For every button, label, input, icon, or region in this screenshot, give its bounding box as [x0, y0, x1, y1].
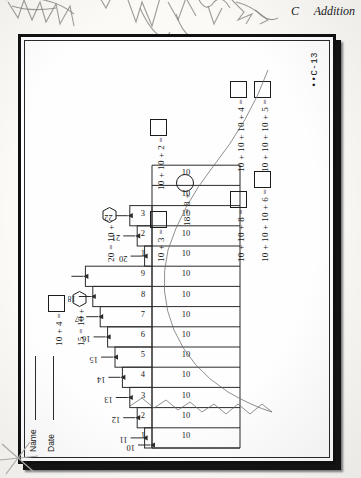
svg-text:10: 10: [182, 410, 191, 420]
page-code: ••C-13: [310, 52, 320, 87]
equation-18-equals-8-plus: 18 = 8 +: [176, 173, 194, 226]
svg-text:15: 15: [90, 355, 99, 365]
equation-text: 10 + 3 =: [156, 229, 166, 262]
svg-text:8: 8: [141, 289, 145, 299]
equation-10-10-10-plus-5: 10 + 10 + 10 + 5 =: [254, 80, 271, 172]
svg-text:13: 13: [104, 395, 113, 405]
equation-15-equals-10-plus: 15 = 10 +: [72, 290, 87, 346]
equation-text: 15 = 10 +: [76, 308, 86, 346]
answer-box[interactable]: [150, 211, 167, 228]
svg-text:4: 4: [141, 369, 146, 379]
svg-text:14: 14: [96, 375, 105, 385]
equation-text: 20 = 10 +: [106, 224, 116, 262]
corner-pencil-mark-icon: [0, 438, 40, 478]
answer-box[interactable]: [254, 81, 271, 98]
svg-text:10: 10: [182, 228, 191, 238]
page-header: C Addition: [0, 0, 361, 34]
svg-text:3: 3: [141, 208, 145, 218]
equation-10-10-10-plus-4: 10 + 10 + 10 + 4 =: [230, 80, 247, 172]
date-rule: [53, 356, 54, 420]
answer-box[interactable]: [48, 295, 65, 312]
answer-hexagon[interactable]: [72, 291, 87, 307]
svg-text:7: 7: [141, 309, 145, 319]
svg-text:3: 3: [141, 390, 145, 400]
equation-10-plus-3: 10 + 3 =: [150, 210, 167, 262]
svg-text:10: 10: [182, 349, 191, 359]
svg-text:1: 1: [141, 430, 145, 440]
section-letter: C: [291, 4, 299, 19]
svg-text:10: 10: [182, 430, 191, 440]
svg-text:10: 10: [182, 369, 191, 379]
date-label: Date: [46, 434, 56, 452]
counting-on-bar-chart: 1010101010101010101010101010111212313414…: [68, 154, 244, 452]
equation-text: 10 + 10 + 10 + 6 =: [260, 189, 270, 262]
svg-text:11: 11: [119, 435, 127, 445]
equation-10-10-plus-8: 10 + 10 + 8 =: [230, 190, 247, 262]
svg-text:10: 10: [182, 329, 191, 339]
equation-10-10-plus-2: 10 + 10 + 2 =: [150, 118, 167, 190]
svg-text:1: 1: [141, 248, 145, 258]
equation-text: 10 + 10 + 2 =: [156, 137, 166, 190]
photographed-worksheet: C Addition Name Date: [0, 0, 361, 478]
answer-box[interactable]: [230, 81, 247, 98]
svg-text:6: 6: [141, 329, 145, 339]
answer-box[interactable]: [230, 191, 247, 208]
answer-hexagon[interactable]: [102, 207, 117, 223]
svg-text:5: 5: [141, 349, 145, 359]
answer-circle[interactable]: [176, 174, 194, 192]
equation-text: 10 + 10 + 10 + 5 =: [260, 99, 270, 172]
svg-text:10: 10: [182, 248, 191, 258]
equation-10-10-10-plus-6: 10 + 10 + 10 + 6 =: [254, 170, 271, 262]
svg-text:10: 10: [182, 289, 191, 299]
answer-box[interactable]: [254, 171, 271, 188]
worksheet-body: Name Date 101010101010101010101010101011…: [24, 40, 324, 452]
worksheet-title: Addition: [314, 4, 355, 19]
svg-text:20: 20: [119, 254, 128, 264]
equation-text: 10 + 10 + 8 =: [236, 209, 246, 262]
svg-text:9: 9: [141, 268, 145, 278]
equation-20-equals-10-plus: 20 = 10 +: [102, 206, 117, 262]
answer-box[interactable]: [150, 119, 167, 136]
equation-text: 10 + 4 =: [54, 313, 64, 346]
name-rule: [35, 356, 36, 420]
equation-text: 18 = 8 +: [182, 193, 192, 226]
svg-text:2: 2: [141, 410, 145, 420]
svg-text:10: 10: [182, 390, 191, 400]
svg-text:10: 10: [127, 443, 136, 453]
equation-10-plus-4: 10 + 4 =: [48, 294, 65, 346]
svg-text:10: 10: [182, 309, 191, 319]
svg-text:10: 10: [182, 268, 191, 278]
equation-text: 10 + 10 + 10 + 4 =: [236, 99, 246, 172]
svg-text:2: 2: [141, 228, 145, 238]
svg-text:12: 12: [112, 415, 121, 425]
